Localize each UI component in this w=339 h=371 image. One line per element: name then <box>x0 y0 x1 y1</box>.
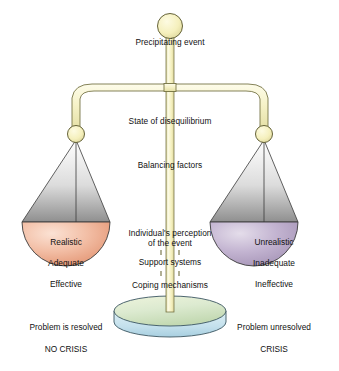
caption-problem-is-resolved: Problem is resolved <box>30 322 103 332</box>
left-pan-word-effective: Effective <box>50 279 82 289</box>
crisis-balance-diagram: Precipitating event State of disequilibr… <box>0 0 339 371</box>
caption-problem-unresolved: Problem unresolved <box>237 322 311 332</box>
central-post <box>166 26 174 312</box>
right-pan-word-ineffective: Ineffective <box>255 279 293 289</box>
right-pan-word-inadequate: Inadequate <box>253 258 295 268</box>
top-ball <box>158 14 183 39</box>
right-pan-word-unrealistic: Unrealistic <box>254 237 293 247</box>
caption-crisis: CRISIS <box>260 344 288 354</box>
caption-no-crisis: NO CRISIS <box>45 344 87 354</box>
scale-illustration <box>0 0 339 371</box>
left-pan-word-realistic: Realistic <box>50 237 82 247</box>
left-pan-word-adequate: Adequate <box>48 258 84 268</box>
